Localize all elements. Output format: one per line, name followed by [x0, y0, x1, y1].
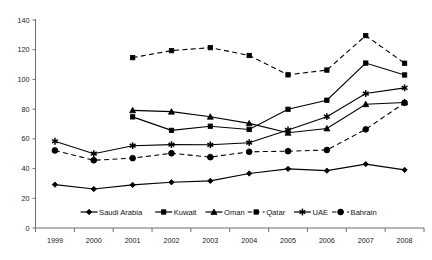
legend-label: Kuwait	[174, 208, 198, 217]
data-point-marker	[364, 33, 368, 37]
data-point-marker	[169, 150, 175, 156]
x-tick-label: 2002	[163, 236, 179, 245]
y-tick-label: 60	[22, 134, 30, 143]
y-tick-label: 120	[18, 45, 30, 54]
series-line	[55, 88, 405, 154]
data-point-marker	[52, 138, 58, 145]
data-point-marker	[324, 147, 330, 153]
data-point-marker	[247, 53, 251, 57]
data-point-marker	[324, 168, 329, 173]
legend-item-saudi-arabia[interactable]: Saudi Arabia	[81, 208, 143, 217]
data-point-marker	[130, 115, 134, 119]
data-point-marker	[338, 209, 344, 215]
data-point-marker	[285, 148, 291, 154]
data-point-marker	[324, 113, 330, 120]
legend-label: Oman	[224, 208, 245, 217]
chart-legend: Saudi ArabiaKuwaitOmanQatarUAEBahrain	[81, 208, 377, 217]
data-point-marker	[363, 126, 369, 132]
data-point-marker	[286, 107, 290, 111]
data-point-marker	[363, 161, 368, 166]
chart-container: 0204060801001201401999200020012002200320…	[0, 0, 432, 260]
data-point-marker	[286, 73, 290, 77]
series-uae	[52, 84, 408, 157]
x-tick-label: 2003	[202, 236, 218, 245]
legend-label: UAE	[312, 208, 328, 217]
data-point-marker	[86, 209, 91, 214]
data-point-marker	[208, 124, 212, 128]
data-point-marker	[285, 166, 290, 171]
data-point-marker	[208, 45, 212, 49]
y-tick-label: 80	[22, 105, 30, 114]
data-point-marker	[402, 61, 406, 65]
data-point-marker	[91, 186, 96, 191]
x-tick-label: 2006	[319, 236, 335, 245]
data-point-marker	[130, 55, 134, 59]
legend-label: Bahrain	[351, 208, 377, 217]
legend-item-kuwait[interactable]: Kuwait	[155, 208, 197, 217]
legend-item-oman[interactable]: Oman	[205, 208, 244, 217]
x-tick-label: 2005	[280, 236, 296, 245]
series-line	[133, 36, 405, 75]
data-point-marker	[207, 154, 213, 160]
series-bahrain	[52, 100, 407, 163]
legend-item-uae[interactable]: UAE	[294, 208, 328, 217]
data-point-marker	[247, 127, 251, 131]
data-point-marker	[52, 182, 57, 187]
data-point-marker	[246, 149, 252, 155]
data-point-marker	[52, 148, 58, 154]
series-line	[133, 63, 405, 130]
x-tick-label: 2007	[358, 236, 374, 245]
legend-label: Qatar	[266, 208, 285, 217]
data-point-marker	[169, 180, 174, 185]
data-point-marker	[325, 68, 329, 72]
x-tick-label: 2004	[241, 236, 257, 245]
data-point-marker	[130, 182, 135, 187]
series-line	[55, 103, 405, 161]
line-chart: 0204060801001201401999200020012002200320…	[0, 0, 432, 260]
x-tick-label: 2001	[125, 236, 141, 245]
data-point-marker	[402, 73, 406, 77]
series-saudi-arabia	[52, 161, 407, 191]
data-point-marker	[161, 210, 165, 214]
data-point-marker	[364, 61, 368, 65]
legend-item-qatar[interactable]: Qatar	[248, 208, 286, 217]
data-point-marker	[130, 155, 136, 161]
series-qatar	[130, 33, 406, 77]
data-point-marker	[402, 100, 408, 106]
legend-item-bahrain[interactable]: Bahrain	[332, 208, 377, 217]
data-point-marker	[169, 48, 173, 52]
data-point-marker	[246, 171, 251, 176]
legend-label: Saudi Arabia	[99, 208, 143, 217]
y-tick-label: 40	[22, 164, 30, 173]
y-tick-label: 20	[22, 194, 30, 203]
data-point-marker	[402, 167, 407, 172]
data-point-marker	[91, 157, 97, 163]
x-tick-label: 2000	[86, 236, 102, 245]
y-tick-label: 100	[18, 75, 30, 84]
series-line	[55, 164, 405, 189]
y-tick-label: 0	[26, 224, 30, 233]
data-point-marker	[208, 178, 213, 183]
x-tick-label: 2008	[397, 236, 413, 245]
data-point-marker	[254, 210, 258, 214]
x-tick-label: 1999	[47, 236, 63, 245]
data-point-marker	[325, 98, 329, 102]
y-tick-label: 140	[18, 16, 30, 25]
data-point-marker	[169, 128, 173, 132]
